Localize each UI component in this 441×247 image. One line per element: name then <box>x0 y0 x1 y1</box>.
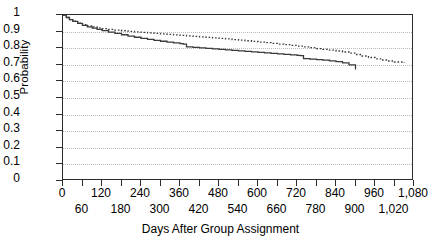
x-axis-title: Days After Group Assignment <box>0 222 441 236</box>
y-axis-tick <box>56 114 62 115</box>
series-solid-curve <box>63 15 356 69</box>
y-axis-tick <box>56 14 62 15</box>
plot-area <box>62 14 413 180</box>
x-axis-tick-label: 1,080 <box>390 186 436 200</box>
x-axis-tick-label: 1,020 <box>371 202 417 216</box>
y-axis-tick <box>56 47 62 48</box>
y-axis-tick <box>56 97 62 98</box>
y-axis-tick <box>56 163 62 164</box>
y-axis-tick <box>56 147 62 148</box>
y-axis-tick <box>56 80 62 81</box>
data-lines <box>63 15 412 179</box>
y-axis-tick <box>56 64 62 65</box>
y-axis-tick <box>56 130 62 131</box>
series-dotted-curve <box>63 15 404 63</box>
survival-probability-chart: Probability Days After Group Assignment … <box>0 0 441 247</box>
y-axis-tick <box>56 31 62 32</box>
curves-svg <box>63 15 414 181</box>
y-axis-title: Probability <box>18 12 40 122</box>
